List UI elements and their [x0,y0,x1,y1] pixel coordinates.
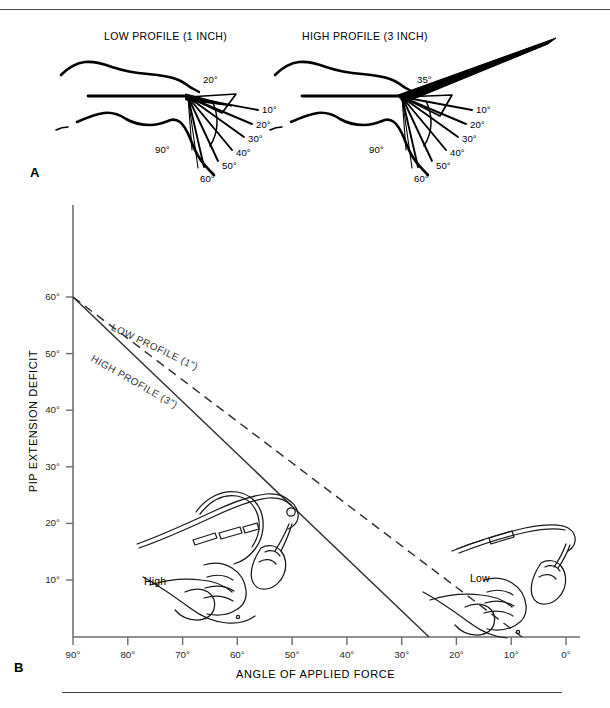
x-tick-label-90: 90° [56,649,90,660]
x-tick-label-20: 20° [439,649,473,660]
chart-plot-area: 10° 20° 30° 40° 50° 60° 90° 80° 70° 60° … [0,0,610,708]
illustration-hand-low [423,525,575,638]
x-tick-label-80: 80° [111,649,145,660]
y-axis-title: PIP EXTENSION DEFICIT [27,326,39,516]
series-line-low-profile [73,297,522,637]
x-tick-label-0: 0° [549,649,583,660]
x-tick-label-10: 10° [494,649,528,660]
chart-vector-layer [0,0,610,708]
y-tick-label-60: 60° [26,291,60,302]
series-line-high-profile [73,297,429,637]
x-tick-label-30: 30° [385,649,419,660]
y-tick-label-10: 10° [26,574,60,585]
x-tick-label-40: 40° [330,649,364,660]
x-tick-label-60: 60° [220,649,254,660]
x-tick-label-50: 50° [275,649,309,660]
illustration-hand-high [137,492,298,623]
illustration-label-low: Low [470,572,490,584]
x-axis-title: ANGLE OF APPLIED FORCE [236,668,395,680]
illustration-label-high: High [144,575,166,587]
y-tick-label-20: 20° [26,517,60,528]
x-tick-label-70: 70° [166,649,200,660]
